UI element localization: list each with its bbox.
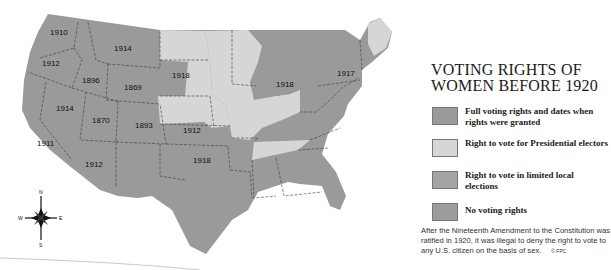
copyright-credit: © FPC (551, 248, 566, 254)
year-label-wyoming: 1869 (124, 83, 142, 92)
us-map: 1910 1914 1912 1896 1869 1918 1914 1870 … (0, 0, 430, 270)
region-presidential-maine (368, 18, 392, 56)
year-label-nevada: 1914 (56, 104, 74, 113)
legend-label: Full voting rights and dates when rights… (465, 106, 608, 128)
year-label-washington: 1910 (50, 28, 68, 37)
legend: Full voting rights and dates when rights… (432, 106, 608, 234)
footnote-text: After the Nineteenth Amendment to the Co… (421, 226, 610, 255)
legend-label: Right to vote in limited local elections (465, 170, 608, 192)
compass-west: W (18, 215, 23, 221)
map-title: VOTING RIGHTS OF WOMEN BEFORE 1920 (431, 62, 598, 94)
legend-swatch-local (432, 171, 458, 189)
legend-swatch-full (432, 107, 458, 125)
compass-south: S (39, 242, 43, 248)
year-label-oregon: 1912 (42, 59, 60, 68)
year-label-south-dakota: 1918 (172, 71, 190, 80)
legend-label: No voting rights (465, 205, 527, 216)
legend-swatch-presidential (432, 139, 458, 157)
year-label-arizona: 1912 (85, 160, 103, 169)
year-label-montana: 1914 (114, 44, 132, 53)
compass-north: N (39, 189, 43, 195)
legend-item-presidential: Right to vote for Presidential electors (432, 138, 608, 170)
legend-item-full: Full voting rights and dates when rights… (432, 106, 608, 138)
year-label-colorado: 1893 (135, 121, 153, 130)
year-label-utah: 1870 (92, 116, 110, 125)
title-line-1: VOTING RIGHTS OF (431, 62, 598, 78)
year-label-oklahoma: 1918 (193, 156, 211, 165)
legend-item-local: Right to vote in limited local elections (432, 170, 608, 202)
footnote: After the Nineteenth Amendment to the Co… (421, 226, 611, 256)
legend-label: Right to vote for Presidential electors (465, 138, 608, 149)
year-label-kansas: 1912 (183, 126, 201, 135)
compass-east: E (59, 215, 63, 221)
year-label-idaho: 1896 (82, 76, 100, 85)
year-label-new-york: 1917 (337, 69, 355, 78)
compass-rose-icon: N S E W (18, 189, 63, 248)
title-line-2: WOMEN BEFORE 1920 (431, 78, 598, 94)
page-edge-line (0, 258, 200, 270)
year-label-california: 1911 (37, 139, 55, 148)
year-label-michigan: 1918 (276, 80, 294, 89)
legend-swatch-none (432, 203, 458, 221)
